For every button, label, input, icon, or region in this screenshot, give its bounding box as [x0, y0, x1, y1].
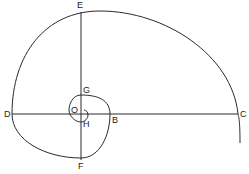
label-E: E — [77, 1, 83, 10]
label-D: D — [4, 110, 11, 119]
label-H: H — [83, 120, 90, 129]
label-F: F — [78, 162, 84, 171]
label-G: G — [83, 86, 90, 95]
label-C: C — [240, 110, 247, 119]
spiral-curve — [12, 11, 240, 158]
label-B: B — [112, 116, 118, 125]
spiral-diagram — [0, 0, 249, 174]
label-O: O — [71, 106, 78, 115]
